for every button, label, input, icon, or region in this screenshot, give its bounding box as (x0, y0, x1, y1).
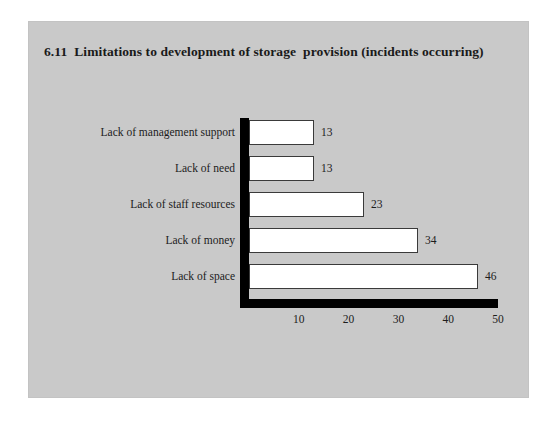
x-axis-tick-labels: 1020304050 (29, 310, 528, 328)
x-axis-tick-label: 40 (433, 310, 463, 328)
bar (249, 228, 418, 253)
bar-row: Lack of management support13 (29, 120, 528, 145)
category-label: Lack of need (55, 156, 235, 181)
bar (249, 120, 314, 145)
chart-panel: 6.11 Limitations to development of stora… (29, 22, 528, 397)
category-label-wrap: Lack of space (49, 264, 235, 289)
x-axis-tick-label: 50 (483, 310, 513, 328)
bar-value-label: 13 (321, 156, 333, 181)
category-label: Lack of space (55, 264, 235, 289)
bar (249, 192, 364, 217)
plot-area: Lack of management support13Lack of need… (29, 22, 528, 397)
category-label: Lack of money (55, 228, 235, 253)
category-label-wrap: Lack of management support (49, 120, 235, 145)
x-axis-tick-label: 10 (284, 310, 314, 328)
bar-value-label: 46 (485, 264, 497, 289)
bar-row: Lack of need13 (29, 156, 528, 181)
bar-value-label: 23 (371, 192, 383, 217)
bar-row: Lack of space46 (29, 264, 528, 289)
category-label-wrap: Lack of staff resources (49, 192, 235, 217)
category-label: Lack of staff resources (55, 192, 235, 217)
bar (249, 264, 478, 289)
bar-value-label: 13 (321, 120, 333, 145)
category-label-wrap: Lack of need (49, 156, 235, 181)
category-label: Lack of management support (55, 120, 235, 145)
bar-value-label: 34 (425, 228, 437, 253)
x-axis-tick-label: 30 (383, 310, 413, 328)
bar (249, 156, 314, 181)
category-label-wrap: Lack of money (49, 228, 235, 253)
x-axis-tick-label: 20 (334, 310, 364, 328)
x-axis-line (240, 299, 498, 308)
bar-row: Lack of money34 (29, 228, 528, 253)
bar-row: Lack of staff resources23 (29, 192, 528, 217)
